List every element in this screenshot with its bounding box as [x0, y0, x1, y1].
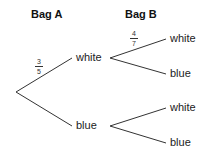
branch-root-white [16, 58, 72, 92]
prob-denominator: 7 [132, 40, 136, 47]
branch-white-white [110, 39, 166, 58]
probability-root-white: 3 5 [35, 58, 43, 75]
branch-blue-white [110, 108, 166, 126]
node-b-white-blue: blue [170, 67, 191, 79]
node-b-blue-blue: blue [170, 136, 191, 148]
node-b-white-white: white [170, 32, 196, 44]
node-a-blue: blue [76, 119, 97, 131]
header-bag-a: Bag A [31, 8, 62, 20]
header-bag-b: Bag B [125, 8, 157, 20]
node-b-blue-white: white [170, 101, 196, 113]
probability-white-white: 4 7 [130, 30, 138, 47]
prob-numerator: 4 [132, 30, 136, 37]
branch-root-blue [16, 92, 72, 126]
node-a-white: white [76, 51, 102, 63]
branch-blue-blue [110, 126, 166, 143]
prob-denominator: 5 [37, 68, 41, 75]
prob-numerator: 3 [37, 58, 41, 65]
branch-white-blue [110, 58, 166, 74]
